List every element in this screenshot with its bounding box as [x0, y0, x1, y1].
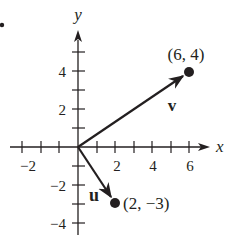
vector-v-label: v [168, 96, 177, 115]
x-tick-label: −2 [20, 158, 36, 174]
x-axis-label: x [215, 137, 224, 156]
x-axis: −2 2 4 6 x [10, 137, 224, 174]
endpoint-label-v: (6, 4) [168, 45, 205, 64]
endpoint-label-u: (2, −3) [123, 194, 169, 213]
y-axis: 4 2 −2 −4 y [50, 5, 85, 235]
y-tick-label: 4 [59, 64, 67, 80]
vector-diagram: −2 2 4 6 x 4 2 −2 −4 y v (6, 4) [0, 0, 232, 241]
x-tick-label: 4 [149, 158, 157, 174]
x-tick-label: 6 [186, 158, 194, 174]
vector-v: v (6, 4) [78, 45, 204, 147]
endpoint-dot [110, 198, 120, 208]
y-axis-label: y [72, 5, 82, 24]
x-tick-label: 2 [113, 158, 121, 174]
y-tick-label: 2 [59, 102, 67, 118]
y-tick-label: −2 [50, 178, 66, 194]
endpoint-dot [184, 67, 194, 77]
vector-u: u (2, −3) [78, 147, 169, 213]
y-tick-label: −4 [50, 216, 66, 232]
vector-u-label: u [89, 185, 99, 205]
bullet-dot [0, 23, 4, 27]
